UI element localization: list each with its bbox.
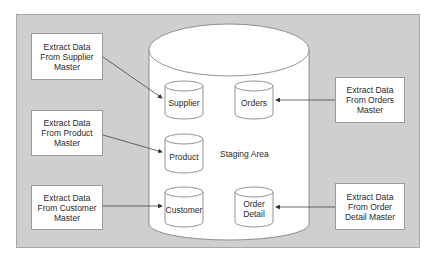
- source-customer-master: Extract Data From Customer Master: [31, 185, 103, 230]
- source-orders-master: Extract Data From Orders Master: [335, 77, 405, 123]
- staging-area-label: Staging Area: [220, 149, 269, 159]
- table-label-order-detail: Order Detail: [235, 197, 273, 221]
- source-supplier-master: Extract Data From Supplier Master: [31, 33, 103, 80]
- table-label-orders: Orders: [235, 92, 273, 114]
- source-product-master: Extract Data From Product Master: [31, 110, 103, 156]
- table-label-customer: Customer: [163, 199, 205, 221]
- table-label-supplier: Supplier: [165, 92, 203, 114]
- source-order-detail-master: Extract Data From Order Detail Master: [335, 183, 405, 230]
- table-label-product: Product: [165, 146, 203, 168]
